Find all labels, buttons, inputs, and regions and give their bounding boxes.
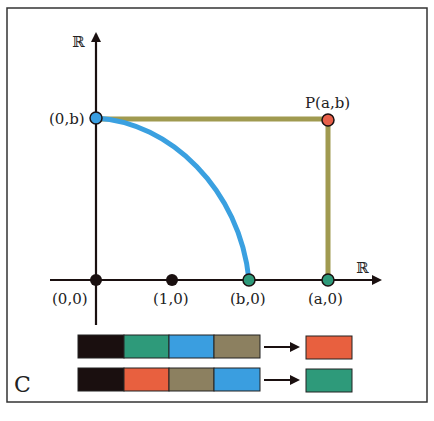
sequence-row-2 xyxy=(78,368,352,392)
point-origin xyxy=(90,274,102,286)
seq1-block-blue xyxy=(169,335,214,358)
sequence-row-1 xyxy=(78,335,352,359)
x-axis-label: ℝ xyxy=(356,259,369,277)
point-P xyxy=(322,114,334,126)
label-b-0: (b,0) xyxy=(230,290,266,308)
seq2-block-black xyxy=(78,368,124,391)
seq2-block-olive xyxy=(169,368,214,391)
label-P: P(a,b) xyxy=(305,94,350,112)
seq2-output-green xyxy=(306,369,352,392)
label-0b: (0,b) xyxy=(49,110,85,128)
point-0b xyxy=(90,112,102,124)
quarter-arc xyxy=(96,118,249,280)
point-b-0 xyxy=(243,274,255,286)
seq2-block-red xyxy=(124,368,169,391)
coordinate-diagram: ℝ ℝ (0,b) P(a,b) (0,0) (1,0) (b,0) (a,0)… xyxy=(0,0,434,421)
point-a-0 xyxy=(322,274,334,286)
label-1-0: (1,0) xyxy=(153,290,189,308)
panel-label: C xyxy=(14,372,31,397)
label-a-0: (a,0) xyxy=(308,290,343,308)
seq1-block-black xyxy=(78,335,124,358)
y-axis-label: ℝ xyxy=(72,33,85,51)
label-origin: (0,0) xyxy=(52,290,88,308)
seq2-block-blue xyxy=(214,368,260,391)
seq1-block-olive xyxy=(214,335,260,358)
point-1-0 xyxy=(166,274,178,286)
seq1-output-red xyxy=(306,336,352,359)
seq1-block-green xyxy=(124,335,169,358)
